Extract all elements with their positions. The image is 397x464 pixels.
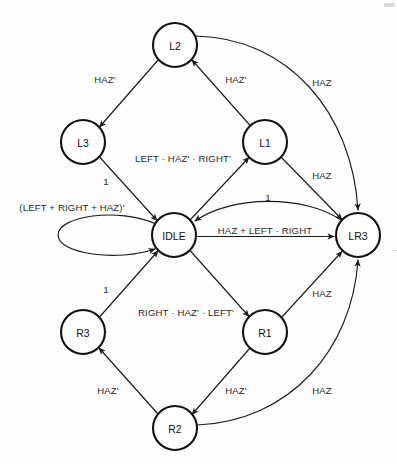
- edge-label-idle-r1: RIGHT · HAZ' · LEFT': [138, 307, 234, 318]
- edge-label-idle-l1: LEFT · HAZ' · RIGHT': [135, 153, 231, 164]
- edge-label-r1-lr3: HAZ: [312, 288, 332, 299]
- fsm-canvas: L2 L3 L1 IDLE LR3 R3: [0, 0, 397, 464]
- node-label-l2: L2: [169, 40, 181, 52]
- edge-label-r2-r3: HAZ': [97, 385, 119, 396]
- edge-label-idle-self-loop: (LEFT + RIGHT + HAZ)': [19, 202, 124, 213]
- edge-label-l1-l2: HAZ': [225, 74, 247, 85]
- edge-idle-self-loop: [58, 215, 156, 255]
- node-label-r3: R3: [76, 327, 90, 339]
- edge-l2-l3: [100, 60, 159, 128]
- edge-idle-l1: [190, 158, 249, 221]
- state-node-idle[interactable]: IDLE: [152, 213, 196, 257]
- edge-label-l2-l3: HAZ': [94, 74, 116, 85]
- state-node-l3[interactable]: L3: [61, 120, 105, 164]
- edge-label-idle-lr3: HAZ + LEFT · RIGHT: [218, 225, 312, 236]
- edge-r1-lr3: [282, 252, 342, 318]
- state-node-lr3[interactable]: LR3: [336, 213, 380, 257]
- edge-r2-r3: [99, 348, 158, 414]
- node-label-l3: L3: [77, 137, 89, 149]
- state-node-l1[interactable]: L1: [243, 120, 287, 164]
- edges-layer: [58, 36, 358, 425]
- node-label-l1: L1: [259, 137, 271, 149]
- node-label-idle: IDLE: [162, 230, 185, 242]
- node-label-r2: R2: [168, 423, 182, 435]
- node-label-lr3: LR3: [348, 230, 367, 242]
- scan-corner-mark-top-right: [384, 3, 395, 7]
- state-node-r1[interactable]: R1: [243, 310, 287, 354]
- edge-label-r2-lr3: HAZ: [312, 385, 332, 396]
- state-node-r3[interactable]: R3: [61, 310, 105, 354]
- edge-label-l3-idle: 1: [103, 176, 109, 187]
- state-diagram: L2 L3 L1 IDLE LR3 R3: [0, 0, 397, 464]
- state-node-l2[interactable]: L2: [153, 23, 197, 67]
- state-node-r2[interactable]: R2: [153, 406, 197, 450]
- edge-label-l2-lr3: HAZ: [312, 77, 332, 88]
- node-label-r1: R1: [258, 327, 272, 339]
- edge-lr3-idle: [195, 201, 341, 221]
- edge-l1-l2: [192, 60, 251, 127]
- edge-label-r3-idle: 1: [103, 284, 109, 295]
- edge-label-l1-lr3: HAZ: [312, 170, 332, 181]
- edge-label-r1-r2: HAZ': [225, 385, 247, 396]
- edge-l1-lr3: [281, 157, 342, 220]
- edge-label-lr3-idle: 1: [265, 192, 271, 203]
- edge-r1-r2: [192, 348, 250, 415]
- scan-corner-mark-right: [393, 250, 397, 251]
